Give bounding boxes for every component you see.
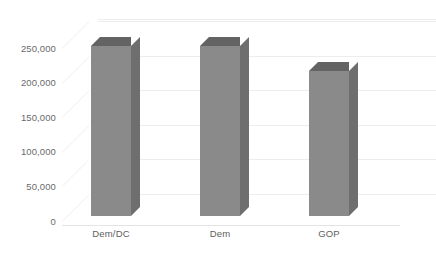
y-tick-label: 200,000 [0, 78, 56, 88]
x-tick-label-dem: Dem [180, 228, 260, 239]
y-tick-label: 0 [0, 217, 56, 227]
depth-connector [62, 159, 90, 187]
x-tick-label-gop: GOP [289, 228, 369, 239]
bar-side-face [349, 62, 358, 216]
bar-front-face [91, 46, 131, 216]
bar-front-face [309, 71, 349, 216]
y-axis: 250,000 200,000 150,000 100,000 50,000 0 [0, 0, 56, 256]
bar-dem[interactable] [200, 0, 258, 226]
y-tick-label: 100,000 [0, 147, 56, 157]
y-tick-label: 150,000 [0, 113, 56, 123]
plot-area: Dem/DC Dem GOP [62, 0, 436, 256]
y-tick-label: 50,000 [0, 182, 56, 192]
depth-connector [62, 21, 90, 49]
depth-connector [62, 90, 90, 118]
bar-top-face [91, 37, 131, 46]
bar-chart: 250,000 200,000 150,000 100,000 50,000 0 [0, 0, 436, 256]
bar-top-face [309, 62, 349, 71]
bar-side-face [131, 37, 140, 216]
bar-gop[interactable] [309, 0, 367, 226]
depth-connector [62, 194, 90, 222]
depth-connector [62, 56, 90, 84]
x-tick-label-dem-dc: Dem/DC [71, 228, 151, 239]
bar-side-face [240, 37, 249, 216]
y-tick-label: 250,000 [0, 44, 56, 54]
bar-front-face [200, 46, 240, 216]
bar-top-face [200, 37, 240, 46]
bar-dem-dc[interactable] [91, 0, 149, 226]
depth-connector [62, 125, 90, 153]
